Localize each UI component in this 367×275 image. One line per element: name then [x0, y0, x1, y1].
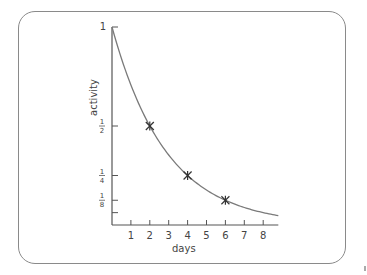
y-tick-denominator: 4: [100, 177, 105, 185]
x-tick-label: 3: [166, 230, 172, 241]
decay-curve: [112, 27, 278, 216]
y-tick-numerator: 1: [100, 118, 104, 126]
y-tick-numerator: 1: [100, 168, 104, 176]
data-markers: [146, 122, 230, 205]
y-axis-label: activity: [88, 78, 99, 118]
x-tick-label: 7: [241, 230, 247, 241]
x-tick-label: 8: [260, 230, 266, 241]
y-tick-label: 1: [100, 21, 106, 32]
x-axis-label: days: [172, 243, 196, 254]
ticks: 123456781121418: [99, 21, 266, 241]
x-tick-label: 1: [128, 230, 134, 241]
x-tick-label: 6: [222, 230, 228, 241]
x-tick-label: 4: [184, 230, 190, 241]
y-tick-numerator: 1: [100, 192, 104, 200]
page-mark: [364, 266, 366, 271]
star-marker-icon: [221, 196, 229, 205]
x-tick-label: 2: [147, 230, 153, 241]
star-marker-icon: [146, 122, 154, 131]
axes: [112, 27, 278, 225]
decay-chart: 123456781121418: [0, 0, 367, 275]
x-tick-label: 5: [203, 230, 209, 241]
star-marker-icon: [184, 171, 192, 180]
y-tick-denominator: 2: [100, 127, 104, 135]
y-tick-denominator: 8: [100, 201, 104, 209]
